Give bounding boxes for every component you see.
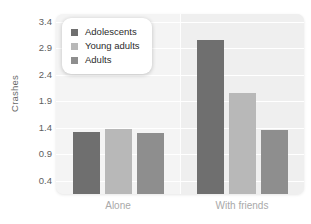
panel-vertical-divider bbox=[180, 14, 181, 194]
y-axis-tick-labels: 0.40.91.41.92.42.93.4 bbox=[26, 0, 52, 224]
legend-item[interactable]: Young adults bbox=[71, 39, 140, 53]
y-axis-tick-label: 2.4 bbox=[39, 70, 52, 80]
y-axis-tick-label: 1.4 bbox=[39, 123, 52, 133]
legend-item[interactable]: Adults bbox=[71, 53, 140, 67]
chart-legend[interactable]: AdolescentsYoung adultsAdults bbox=[62, 18, 152, 74]
y-axis-title: Crashes bbox=[9, 64, 20, 124]
y-axis-tick-label: 3.4 bbox=[39, 17, 52, 27]
y-axis-tick-label: 0.4 bbox=[39, 176, 52, 186]
y-axis-tick-label: 0.9 bbox=[39, 150, 52, 160]
bar-adolescents-alone bbox=[73, 132, 100, 194]
legend-item-label: Adults bbox=[85, 55, 111, 65]
bar-adolescents-with-friends bbox=[197, 40, 224, 194]
legend-item-label: Young adults bbox=[85, 41, 140, 51]
legend-swatch-adolescents-icon bbox=[71, 29, 78, 36]
legend-item-label: Adolescents bbox=[85, 27, 137, 37]
legend-swatch-adults-icon bbox=[71, 57, 78, 64]
y-axis-tick-label: 1.9 bbox=[39, 97, 52, 107]
legend-item[interactable]: Adolescents bbox=[71, 25, 140, 39]
x-axis-tick-label: With friends bbox=[216, 200, 269, 211]
y-axis-tick-label: 2.9 bbox=[39, 44, 52, 54]
bar-adults-alone bbox=[137, 133, 164, 194]
bar-young-adults-alone bbox=[105, 129, 132, 194]
bar-adults-with-friends bbox=[261, 130, 288, 194]
bar-chart-figure: Crashes 0.40.91.41.92.42.93.4 AloneWith … bbox=[0, 0, 311, 224]
legend-swatch-young-adults-icon bbox=[71, 43, 78, 50]
x-axis-tick-label: Alone bbox=[105, 200, 131, 211]
bar-young-adults-with-friends bbox=[229, 93, 256, 194]
